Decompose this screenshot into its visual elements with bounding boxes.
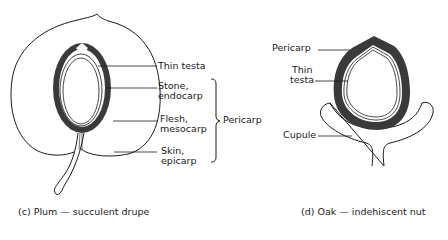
pericarp-bracket [211, 79, 220, 162]
label-cupule: Cupule [283, 130, 316, 140]
label-epicarp: epicarp [161, 156, 197, 166]
label-mesocarp: mesocarp [160, 124, 207, 134]
label-oak-pericarp: Pericarp [272, 43, 311, 53]
caption-plum: (c) Plum — succulent drupe [18, 206, 149, 217]
label-thin-testa: Thin testa [158, 61, 206, 71]
label-pericarp-bracket: Pericarp [223, 115, 262, 125]
caption-oak: (d) Oak — indehiscent nut [301, 206, 426, 217]
label-endocarp: endocarp [158, 91, 203, 101]
label-oak-testa: testa [290, 75, 314, 85]
